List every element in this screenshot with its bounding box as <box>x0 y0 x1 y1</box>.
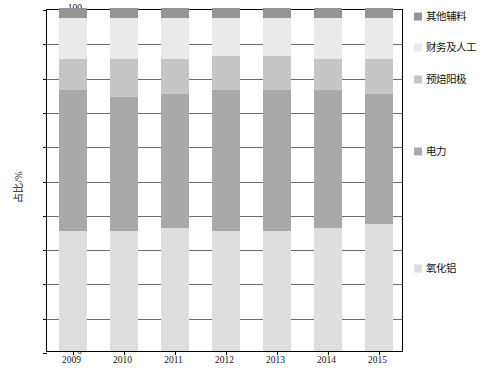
y-axis-tick <box>43 10 47 11</box>
bar-segment <box>212 8 240 18</box>
x-axis-tick-label: 2011 <box>147 355 201 366</box>
x-axis-tick-label: 2010 <box>96 355 150 366</box>
x-axis-tick-label: 2014 <box>300 355 354 366</box>
bar-segment <box>263 18 291 56</box>
bar-segment <box>59 18 87 59</box>
y-axis-tick <box>43 44 47 45</box>
legend-swatch-icon <box>414 75 422 83</box>
bar-segment <box>212 56 240 90</box>
y-axis-tick <box>43 182 47 183</box>
bar-segment <box>365 224 393 351</box>
bar-segment <box>314 59 342 90</box>
legend-item[interactable]: 财务及人工 <box>414 42 476 53</box>
legend-label: 预焙阳极 <box>426 74 466 85</box>
bar-stack <box>161 8 189 351</box>
legend-label: 其他辅料 <box>426 11 466 22</box>
legend-item[interactable]: 氧化铝 <box>414 263 456 274</box>
bar-segment <box>161 59 189 93</box>
x-axis-tick-label: 2015 <box>351 355 405 366</box>
y-axis-tick <box>43 353 47 354</box>
bar-segment <box>212 90 240 231</box>
bar-segment <box>365 94 393 224</box>
legend-item[interactable]: 预焙阳极 <box>414 74 466 85</box>
bar-segment <box>212 231 240 351</box>
bar-segment <box>263 90 291 231</box>
legend-swatch-icon <box>414 43 422 51</box>
bar-segment <box>263 56 291 90</box>
stacked-bar-chart: 占比/% 0102030405060708090100 200920102011… <box>0 0 488 373</box>
bar-stack <box>263 8 291 351</box>
x-axis-tick-label: 2012 <box>198 355 252 366</box>
y-axis-tick <box>43 147 47 148</box>
bar-stack <box>110 8 138 351</box>
legend-item[interactable]: 其他辅料 <box>414 11 466 22</box>
bar-segment <box>314 90 342 227</box>
bar-segment <box>110 8 138 18</box>
bar-segment <box>110 97 138 231</box>
bar-segment <box>263 231 291 351</box>
y-axis-tick <box>43 113 47 114</box>
bar-segment <box>59 59 87 90</box>
bar-segment <box>365 59 393 93</box>
bar-stack <box>59 8 87 351</box>
y-axis-title: 占比/% <box>10 171 25 202</box>
legend-label: 财务及人工 <box>426 42 476 53</box>
bar-segment <box>314 228 342 351</box>
y-axis-tick <box>43 250 47 251</box>
legend-item[interactable]: 电力 <box>414 146 446 157</box>
bar-segment <box>161 228 189 351</box>
bar-segment <box>161 18 189 59</box>
y-axis-tick <box>43 319 47 320</box>
bar-segment <box>59 231 87 351</box>
bar-segment <box>314 18 342 59</box>
x-axis-tick-label: 2009 <box>45 355 99 366</box>
chart-legend: 其他辅料财务及人工预焙阳极电力氧化铝 <box>414 0 488 373</box>
legend-swatch-icon <box>414 12 422 20</box>
legend-swatch-icon <box>414 264 422 272</box>
bar-segment <box>263 8 291 18</box>
bar-stack <box>365 8 393 351</box>
bar-segment <box>365 18 393 59</box>
y-axis-tick <box>43 79 47 80</box>
y-axis-tick <box>43 284 47 285</box>
bar-segment <box>161 94 189 228</box>
x-axis-tick-label: 2013 <box>249 355 303 366</box>
legend-swatch-icon <box>414 147 422 155</box>
bar-stack <box>314 8 342 351</box>
legend-label: 电力 <box>426 146 446 157</box>
bar-segment <box>59 8 87 18</box>
bar-stack <box>212 8 240 351</box>
y-axis-tick <box>43 216 47 217</box>
bar-segment <box>110 231 138 351</box>
bar-segment <box>314 8 342 18</box>
bar-segment <box>212 18 240 56</box>
bar-segment <box>59 90 87 231</box>
bar-segment <box>365 8 393 18</box>
bar-segment <box>161 8 189 18</box>
legend-label: 氧化铝 <box>426 263 456 274</box>
bar-segment <box>110 59 138 97</box>
bar-segment <box>110 18 138 59</box>
plot-area <box>46 9 403 352</box>
